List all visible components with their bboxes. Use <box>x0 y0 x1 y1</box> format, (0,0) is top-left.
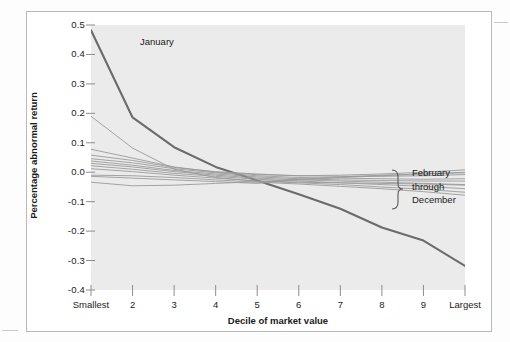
legend-line-1: February <box>412 166 456 180</box>
figure-container: 0.50.40.30.20.10.0-0.1-0.2-0.3-0.4 Small… <box>0 0 510 342</box>
y-tick-label: 0.3 <box>33 78 85 89</box>
x-axis-title: Decile of market value <box>91 315 465 326</box>
x-tick-label: Largest <box>430 299 500 310</box>
y-tick-label: -0.1 <box>33 196 85 207</box>
y-tick-label: 0.4 <box>33 48 85 59</box>
january-series-label: January <box>140 36 174 47</box>
y-axis-title: Percentage abnormal return <box>28 76 39 236</box>
y-tick-label: -0.3 <box>33 255 85 266</box>
legend-line-2: through <box>412 180 456 194</box>
legend-label-february-through-december: February through December <box>412 166 456 207</box>
y-tick-label: 0.5 <box>33 19 85 30</box>
y-tick-label: 0.0 <box>33 166 85 177</box>
plot-background <box>91 25 465 290</box>
y-tick-label: 0.1 <box>33 137 85 148</box>
y-tick-label: -0.2 <box>33 225 85 236</box>
y-tick-label: -0.4 <box>33 284 85 295</box>
legend-line-3: December <box>412 193 456 207</box>
y-tick-label: 0.2 <box>33 107 85 118</box>
